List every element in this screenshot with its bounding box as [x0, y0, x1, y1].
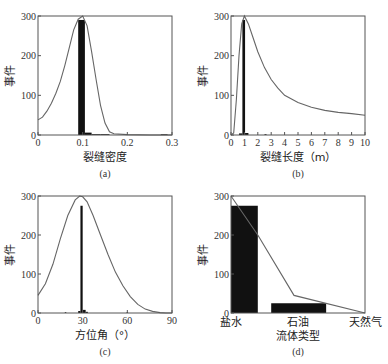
- category-label: 石油: [287, 315, 309, 329]
- x-tick-label: 90: [167, 315, 177, 326]
- x-tick-label: 60: [122, 315, 132, 326]
- y-axis-label: 事件: [197, 244, 210, 266]
- x-tick-label: 0.3: [166, 137, 179, 148]
- chart-a: 010020030000.10.20.3裂缝密度事件(a): [4, 11, 178, 181]
- plot-frame: [38, 196, 172, 313]
- y-tick-label: 100: [214, 90, 229, 101]
- x-tick-label: 2: [255, 137, 260, 148]
- y-axis-label: 事件: [197, 65, 210, 87]
- plot-frame: [38, 16, 172, 135]
- figure-canvas: 010020030000.10.20.3裂缝密度事件(a)01002003000…: [0, 0, 388, 364]
- x-tick-label: 0: [36, 315, 41, 326]
- panel-caption: (b): [292, 168, 304, 180]
- fit-curve: [38, 16, 172, 135]
- x-tick-label: 6: [309, 137, 314, 148]
- x-axis-label: 方位角（°）: [75, 328, 136, 342]
- x-tick-label: 0.1: [76, 137, 89, 148]
- chart-d: 0100200300盐水石油天然气流体类型事件(d): [197, 191, 382, 359]
- y-tick-label: 300: [21, 191, 36, 202]
- x-tick-label: 30: [78, 315, 88, 326]
- fit-curve: [38, 196, 172, 313]
- y-tick-label: 100: [21, 269, 36, 280]
- panel-caption: (d): [292, 346, 304, 358]
- x-tick-label: 9: [349, 137, 354, 148]
- x-tick-label: 5: [296, 137, 301, 148]
- y-tick-label: 300: [214, 11, 229, 22]
- chart-c: 01002003000306090方位角（°）事件(c): [4, 191, 177, 359]
- bar-石油: [271, 303, 326, 313]
- x-tick-label: 1: [242, 137, 247, 148]
- x-tick-label: 3: [269, 137, 274, 148]
- y-axis-label: 事件: [4, 244, 17, 266]
- fit-curve: [231, 16, 365, 135]
- x-axis-label: 裂缝长度（m）: [260, 150, 337, 164]
- y-tick-label: 100: [214, 269, 229, 280]
- x-tick-label: 4: [282, 137, 287, 148]
- y-tick-label: 200: [214, 230, 229, 241]
- x-tick-label: 0.2: [121, 137, 134, 148]
- y-tick-label: 100: [21, 90, 36, 101]
- bar: [78, 20, 85, 135]
- x-tick-label: 0: [229, 137, 234, 148]
- panel-caption: (c): [99, 346, 110, 358]
- y-tick-label: 200: [21, 50, 36, 61]
- y-axis-label: 事件: [4, 65, 17, 87]
- chart-b: 0100200300012345678910裂缝长度（m）事件(b): [197, 11, 370, 181]
- bar: [80, 206, 82, 313]
- x-axis-label: 流体类型: [276, 329, 320, 343]
- y-tick-label: 300: [21, 11, 36, 22]
- category-label: 盐水: [220, 316, 242, 329]
- panel-caption: (a): [99, 168, 110, 180]
- x-axis-label: 裂缝密度: [83, 150, 127, 164]
- y-tick-label: 200: [214, 50, 229, 61]
- y-tick-label: 200: [21, 230, 36, 241]
- x-tick-label: 7: [322, 137, 327, 148]
- y-tick-label: 300: [214, 191, 229, 202]
- x-tick-label: 10: [360, 137, 370, 148]
- x-tick-label: 8: [336, 137, 341, 148]
- bar-盐水: [231, 206, 258, 313]
- bar: [242, 20, 245, 135]
- category-label: 天然气: [349, 315, 382, 329]
- x-tick-label: 0: [36, 137, 41, 148]
- plot-frame: [231, 16, 365, 135]
